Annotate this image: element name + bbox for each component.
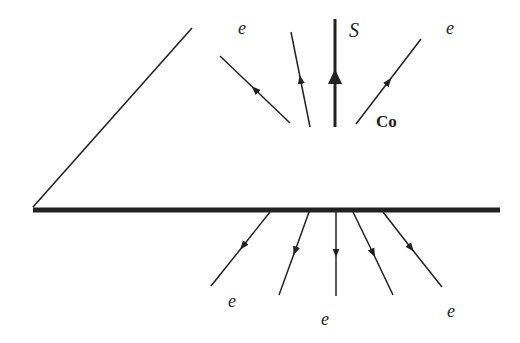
electron-path xyxy=(211,212,270,286)
spin-arrow-icon xyxy=(328,69,342,84)
wedge-line xyxy=(33,28,192,207)
lower-electron-lines xyxy=(211,212,442,296)
electron-path xyxy=(353,212,393,295)
label-e-bottom-middle: e xyxy=(321,309,329,329)
label-s: S xyxy=(349,19,359,41)
electron-path xyxy=(291,32,310,127)
electron-path xyxy=(383,212,442,287)
label-e-top-left: e xyxy=(238,18,246,38)
spin-axis-s xyxy=(328,19,342,127)
label-e-bottom-right: e xyxy=(447,301,455,321)
electron-path xyxy=(220,56,290,123)
electron-path xyxy=(279,212,309,295)
label-e-bottom-left: e xyxy=(228,291,236,311)
label-e-top-right: e xyxy=(446,18,454,38)
cobalt-beta-decay-diagram: e S e Co e e e xyxy=(0,0,520,343)
label-co: Co xyxy=(376,112,397,131)
